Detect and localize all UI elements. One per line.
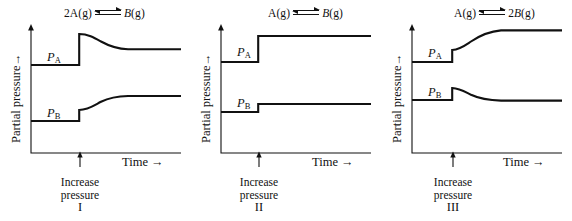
annotation-line-1: Increase [413,176,493,189]
x-axis-label-arrow: → [151,155,164,169]
equilibrium-arrow-icon [293,8,319,18]
panel-I: 2A(g)B(g) PA PB Partial pressure→ Time →… [0,0,190,221]
x-axis-label: Time → [122,156,164,169]
y-axis-label-text: Partial pressure [9,66,23,143]
equation-I-left-state: (g) [78,7,92,19]
series-label-PB-base: P [237,96,245,110]
series-label-PB: PB [428,86,441,99]
y-axis-label-arrow: → [199,54,213,66]
y-axis-label: Partial pressure→ [200,38,213,158]
series-label-PA: PA [428,47,442,60]
increase-pressure-arrowhead [256,152,261,158]
series-label-PB: PB [47,107,60,120]
equation-I-right-state: (g) [131,7,145,19]
y-axis-label: Partial pressure→ [10,38,23,158]
annotation-line-1: Increase [219,176,299,189]
series-label-PA-sub: A [436,51,442,61]
equation-III: A(g)2B(g) [454,8,535,20]
panel-roman-numeral: III [433,201,473,214]
axes [31,28,181,153]
equation-II: A(g)B(g) [268,8,343,20]
panel-roman-numeral: II [239,201,279,214]
y-axis-label-text: Partial pressure [390,66,404,143]
y-axis-label-text: Partial pressure [199,66,213,143]
x-axis-label-text: Time [122,155,148,169]
y-axis-label: Partial pressure→ [391,38,404,158]
increase-pressure-annotation: Increase pressure [219,176,299,202]
increase-pressure-annotation: Increase pressure [413,176,493,202]
y-axis-arrowhead [28,24,34,30]
increase-pressure-arrowhead [450,152,455,158]
y-axis-arrowhead [409,24,415,30]
series-label-PA-base: P [237,45,245,59]
series-label-PB: PB [237,97,250,110]
equation-I: 2A(g)B(g) [64,8,145,20]
series-label-PA: PA [47,51,61,64]
y-axis-arrowhead [218,24,224,30]
y-axis-label-arrow: → [390,54,404,66]
series-label-PA-base: P [47,50,55,64]
increase-pressure-annotation: Increase pressure [40,176,120,202]
y-axis-label-arrow: → [9,54,23,66]
increase-pressure-arrowhead [77,152,82,158]
x-axis-label-arrow: → [532,155,545,169]
series-label-PB-sub: B [245,101,251,111]
equilibrium-arrow-icon [479,8,505,18]
x-axis-label-arrow: → [341,155,354,169]
panel-II: A(g)B(g) PA PB Partial pressure→ Time → … [190,0,380,221]
x-axis-label-text: Time [503,155,529,169]
series-label-PA: PA [237,46,251,59]
series-label-PA-sub: A [245,50,251,60]
series-label-PB-sub: B [55,111,61,121]
panel-III: A(g)2B(g) PA PB Partial pressure→ Time →… [381,0,571,221]
x-axis-label-text: Time [312,155,338,169]
panel-roman-numeral: I [60,201,100,214]
x-axis-label: Time → [503,156,545,169]
x-axis-label: Time → [312,156,354,169]
series-label-PB-sub: B [436,90,442,100]
equilibrium-shift-figure: 2A(g)B(g) PA PB Partial pressure→ Time →… [0,0,572,221]
equation-II-left-state: (g) [276,7,290,19]
series-label-PA-base: P [428,46,436,60]
equation-II-right-state: (g) [329,7,343,19]
series-label-PA-sub: A [55,55,61,65]
series-label-PB-base: P [47,106,55,120]
annotation-line-1: Increase [40,176,120,189]
series-label-PB-base: P [428,85,436,99]
equilibrium-arrow-icon [95,8,121,18]
equation-I-left-species: A [70,7,78,19]
equation-III-right-state: (g) [521,7,535,19]
equation-III-left-state: (g) [462,7,476,19]
